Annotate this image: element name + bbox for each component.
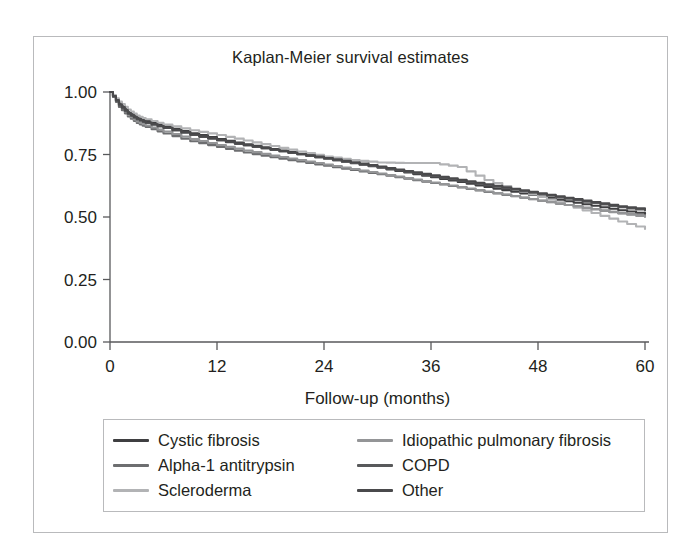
y-axis-tick-label: 0.75 — [64, 146, 97, 165]
axis-layer — [103, 91, 649, 350]
legend-grid: Cystic fibrosisIdiopathic pulmonary fibr… — [113, 428, 637, 503]
legend-item-label: Other — [402, 482, 443, 499]
legend: Cystic fibrosisIdiopathic pulmonary fibr… — [103, 419, 645, 512]
series-line — [110, 92, 645, 211]
legend-item: Cystic fibrosis — [113, 428, 357, 453]
legend-item: Other — [357, 478, 637, 503]
kaplan-meier-figure: Kaplan-Meier survival estimates 0.000.25… — [0, 0, 700, 557]
legend-line-icon — [357, 439, 393, 442]
series-line — [110, 92, 645, 229]
x-axis-title: Follow-up (months) — [305, 389, 451, 408]
y-axis-tick-label: 1.00 — [64, 83, 97, 102]
legend-line-icon — [357, 464, 393, 467]
x-axis-tick-label: 60 — [636, 357, 655, 376]
legend-item: COPD — [357, 453, 637, 478]
y-axis-tick-label: 0.25 — [64, 271, 97, 290]
y-axis-tick-label: 0.50 — [64, 208, 97, 227]
legend-item: Idiopathic pulmonary fibrosis — [357, 428, 637, 453]
x-axis-tick-label: 36 — [422, 357, 441, 376]
legend-line-icon — [357, 489, 393, 492]
legend-item-label: Scleroderma — [158, 482, 252, 499]
legend-line-icon — [113, 464, 149, 467]
plot-area: 0.000.250.500.751.0001224364860Follow-up… — [33, 36, 668, 436]
series-line — [110, 92, 645, 210]
y-axis-tick-label: 0.00 — [64, 333, 97, 352]
legend-item-label: Cystic fibrosis — [158, 432, 260, 449]
x-axis-tick-label: 24 — [315, 357, 334, 376]
legend-item-label: Alpha-1 antitrypsin — [158, 457, 295, 474]
x-axis-tick-label: 0 — [105, 357, 114, 376]
series-layer — [110, 92, 645, 229]
legend-item: Scleroderma — [113, 478, 357, 503]
legend-item-label: Idiopathic pulmonary fibrosis — [402, 432, 611, 449]
x-axis-tick-label: 12 — [208, 357, 227, 376]
legend-line-icon — [113, 489, 149, 492]
legend-item: Alpha-1 antitrypsin — [113, 453, 357, 478]
axis-labels-layer: 0.000.250.500.751.0001224364860Follow-up… — [64, 83, 655, 408]
x-axis-tick-label: 48 — [529, 357, 548, 376]
legend-line-icon — [113, 439, 149, 442]
legend-item-label: COPD — [402, 457, 450, 474]
